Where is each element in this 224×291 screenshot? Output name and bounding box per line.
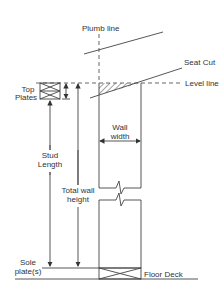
wall-lower-section bbox=[99, 193, 141, 268]
floor-deck-label: Floor Deck bbox=[144, 270, 184, 279]
stud-length-label-1: Stud bbox=[42, 151, 58, 160]
sole-plate-x-mark bbox=[99, 268, 141, 279]
total-wall-height-label-1: Total wall bbox=[62, 186, 95, 195]
wall-width-label-2: width bbox=[110, 132, 130, 141]
rafter-top-line bbox=[84, 32, 163, 54]
stud-length-label-2: Length bbox=[38, 160, 62, 169]
wall-width-label-1: Wall bbox=[112, 123, 127, 132]
sole-plates-label-1: Sole bbox=[20, 258, 37, 267]
seat-cut-label: Seat Cut bbox=[184, 58, 216, 67]
wall-framing-diagram: Plumb line Level line Seat Cut Top Plate… bbox=[0, 0, 224, 291]
total-wall-height-label-2: height bbox=[67, 195, 90, 204]
plumb-line-label: Plumb line bbox=[82, 24, 120, 33]
top-plates-label-2: Plates bbox=[15, 93, 37, 102]
sole-plates-label-2: plate(s) bbox=[15, 267, 42, 276]
level-line-label: Level line bbox=[185, 79, 219, 88]
